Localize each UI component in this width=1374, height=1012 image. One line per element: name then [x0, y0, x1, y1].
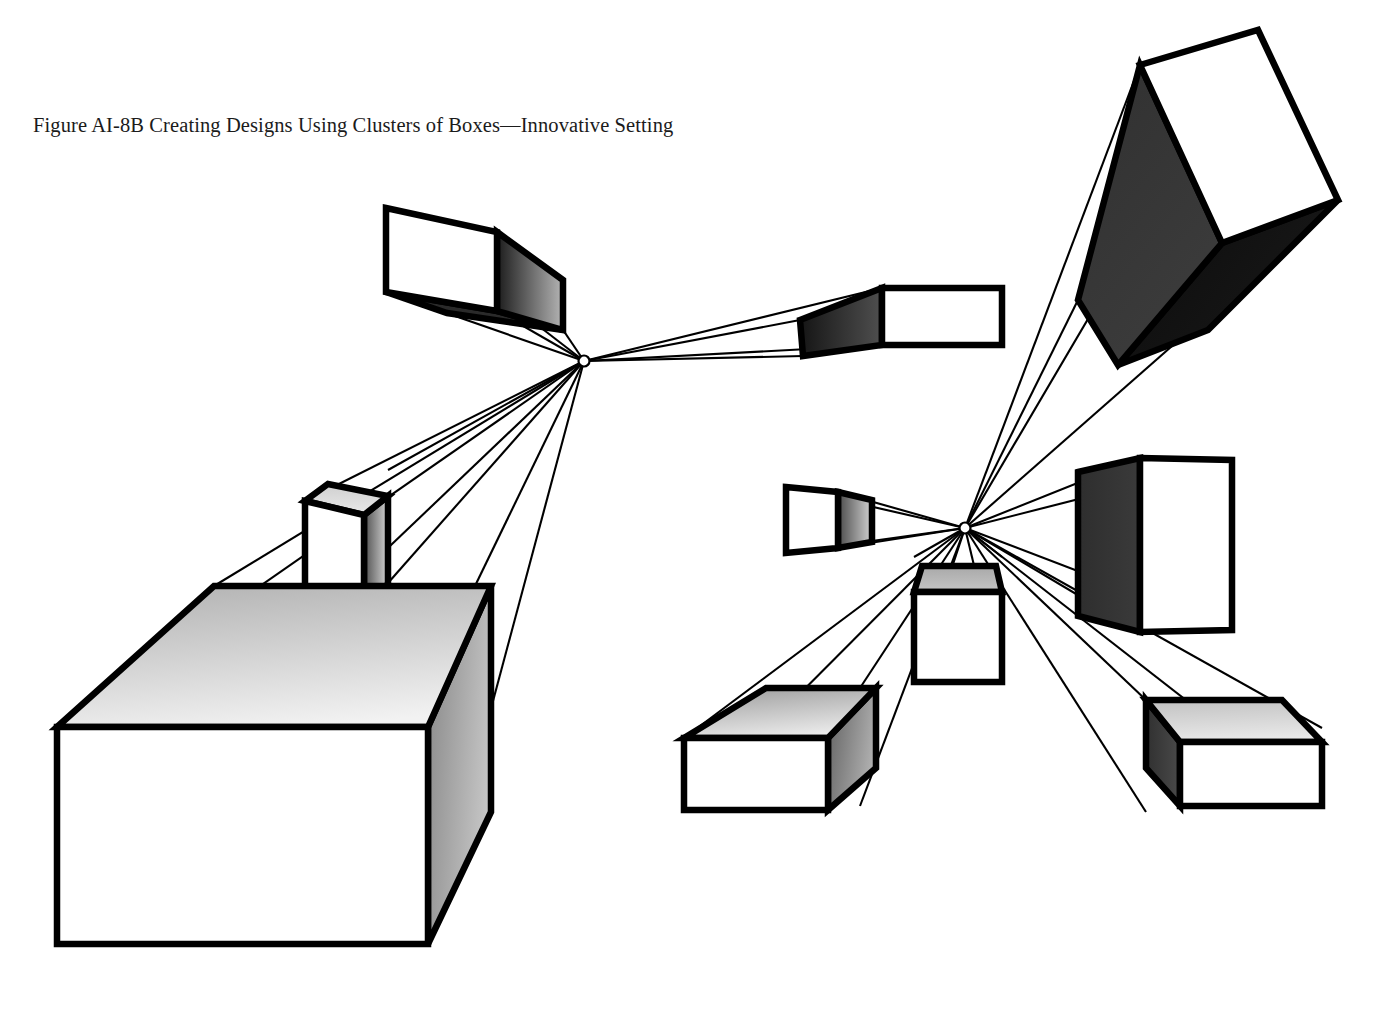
box-top-face: [914, 566, 1002, 592]
box-lower-right-of-right-cluster: [1146, 700, 1322, 806]
box-side-face: [838, 492, 872, 548]
box-center-cube: [914, 566, 1002, 682]
box-front-face: [684, 738, 828, 810]
box-front-face: [786, 487, 838, 553]
box-side-face: [1078, 458, 1140, 632]
box-large-foreground-slab: [57, 586, 491, 944]
box-front-face: [914, 592, 1002, 682]
box-side-face: [497, 232, 563, 330]
box-front-face: [57, 727, 428, 944]
box-large-tilted-cube: [1078, 30, 1338, 365]
perspective-drawing-canvas: [0, 0, 1374, 1012]
box-top-face: [57, 586, 491, 727]
box-front-face: [386, 208, 497, 311]
box-top-face: [1146, 700, 1322, 742]
right-vanishing-point: [960, 523, 971, 534]
vanishing-points-layer: [579, 356, 971, 534]
box-small-left-of-right-vp: [786, 487, 872, 553]
box-front-face: [882, 288, 1002, 345]
box-tall-right-upright: [1078, 458, 1232, 632]
left-vanishing-point: [579, 356, 590, 367]
box-front-face: [1140, 458, 1232, 632]
box-upper-left-cube: [386, 208, 563, 330]
boxes-layer: [57, 30, 1338, 944]
box-front-face: [1180, 742, 1322, 806]
convergence-line: [305, 361, 584, 501]
box-lower-left-of-right-cluster: [684, 688, 876, 810]
box-right-of-left-vp: [800, 288, 1002, 356]
figure-root: Figure AI-8B Creating Designs Using Clus…: [0, 0, 1374, 1012]
